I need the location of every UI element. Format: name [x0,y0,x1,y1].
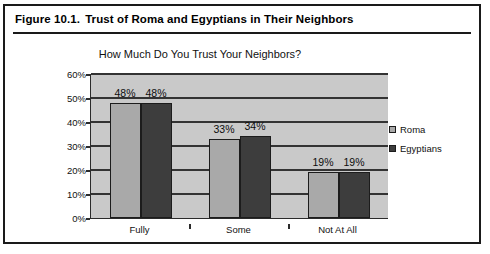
x-tick-label: Not At All [318,224,357,235]
plot-area: 48%48%33%34%19%19% [90,74,388,219]
y-tick-mark [86,98,90,100]
legend-item-egyptians: Egyptians [389,143,469,153]
bar-group [289,74,388,218]
x-tick-label: Some [226,224,251,235]
y-tick-mark [86,146,90,148]
y-tick-label: 60% [53,69,86,80]
y-tick-label: 10% [53,189,86,200]
x-tick-label: Fully [129,224,149,235]
y-tick-label: 30% [53,141,86,152]
chart-area: How Much Do You Trust Your Neighbors? 0%… [5,36,479,242]
x-tick-mark [189,224,191,229]
bar-egyptians-some [240,136,271,218]
bar-egyptians-fully [141,103,172,218]
y-tick-mark [86,170,90,172]
figure-caption: Figure 10.1.Trust of Roma and Egyptians … [15,13,354,25]
figure-number: Figure 10.1. [15,13,80,25]
bar-egyptians-not-at-all [339,172,370,218]
caption-divider [13,32,471,34]
x-tick-mark [288,224,290,229]
bar-roma-fully [110,103,141,218]
y-axis: 0%10%20%30%40%50%60% [53,74,86,218]
legend-item-roma: Roma [389,124,469,134]
figure-caption-text: Trust of Roma and Egyptians in Their Nei… [85,13,354,25]
legend-swatch-icon [389,126,396,133]
y-tick-label: 40% [53,117,86,128]
bar-group [91,74,190,218]
y-tick-mark [86,122,90,124]
y-tick-mark [86,194,90,196]
bar-roma-not-at-all [308,172,339,218]
y-tick-label: 20% [53,165,86,176]
y-tick-label: 50% [53,93,86,104]
bar-roma-some [209,139,240,218]
legend-label: Egyptians [400,143,442,154]
y-tick-label: 0% [53,213,86,224]
chart-legend: RomaEgyptians [389,124,469,162]
figure-frame: Figure 10.1.Trust of Roma and Egyptians … [3,4,481,244]
chart-title: How Much Do You Trust Your Neighbors? [5,48,395,60]
y-tick-mark [86,218,90,220]
bar-group [190,74,289,218]
y-tick-mark [86,74,90,76]
legend-swatch-icon [389,145,396,152]
legend-label: Roma [400,124,425,135]
x-axis: FullySomeNot At All [90,224,387,240]
